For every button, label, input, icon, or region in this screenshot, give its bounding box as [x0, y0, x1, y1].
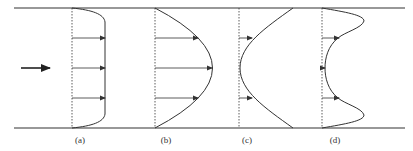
velocity-curve	[240, 8, 293, 128]
label-c: (c)	[242, 135, 252, 145]
velocity-curve	[322, 8, 364, 128]
profile-b	[155, 8, 213, 128]
profile-c	[239, 8, 293, 128]
profile-a	[72, 8, 105, 128]
velocity-profile-diagram: (a) (b) (c) (d)	[0, 0, 413, 151]
label-a: (a)	[75, 135, 85, 145]
label-b: (b)	[161, 135, 172, 145]
profile-d	[322, 8, 364, 128]
label-d: (d)	[330, 135, 341, 145]
